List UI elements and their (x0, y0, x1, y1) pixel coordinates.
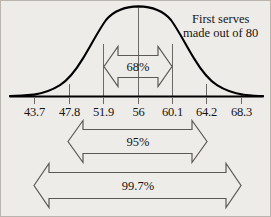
band-label-997: 99.7% (122, 178, 154, 193)
tick-label-4: 60.1 (162, 105, 183, 120)
band-label-95: 95% (127, 134, 150, 149)
band-label-68: 68% (127, 59, 150, 74)
tick-label-1: 47.8 (59, 105, 80, 120)
tick-label-3: 56 (132, 105, 144, 120)
axis-ticks (35, 97, 242, 104)
caption-line-1: First serves (183, 12, 258, 26)
chart-caption: First serves made out of 80 (183, 12, 258, 40)
tick-label-6: 68.3 (231, 105, 252, 120)
tick-label-0: 43.7 (24, 105, 45, 120)
caption-line-2: made out of 80 (183, 26, 258, 40)
tick-label-2: 51.9 (93, 105, 114, 120)
tick-label-5: 64.2 (196, 105, 217, 120)
normal-distribution-figure: 43.7 47.8 51.9 56 60.1 64.2 68.3 68% 95%… (0, 0, 271, 217)
